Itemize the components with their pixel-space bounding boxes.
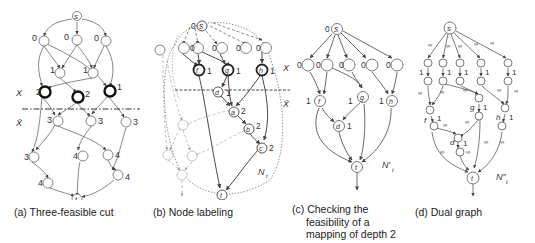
svg-text:X̄: X̄ [282, 99, 290, 109]
svg-text:N: N [258, 167, 265, 177]
svg-text:1: 1 [306, 96, 311, 106]
svg-text:1: 1 [117, 82, 122, 92]
figure-canvas: s t 0 0 0 1 1 2 2 1 3 3 3 3 4 4 4 4 X X̄ [0, 0, 535, 200]
svg-text:g: g [470, 103, 475, 112]
svg-text:g: g [360, 94, 364, 102]
svg-text:0: 0 [297, 60, 302, 70]
svg-text:0: 0 [325, 24, 330, 34]
panel-d-dual-graph: ∞ ∞ ∞ ∞ ∞ ∞ ∞ ∞ ∞ ∞ ∞ ∞ ∞ ∞ ∞ ∞ 1 1 1 1 … [418, 22, 518, 196]
svg-text:s: s [447, 24, 451, 33]
svg-text:N′: N′ [382, 160, 390, 170]
svg-text:1: 1 [347, 121, 352, 131]
svg-text:2: 2 [36, 87, 41, 97]
svg-text:∞: ∞ [497, 87, 501, 93]
svg-text:∞: ∞ [500, 139, 504, 145]
svg-text:3: 3 [24, 152, 29, 162]
svg-text:∞: ∞ [466, 149, 470, 155]
svg-text:4: 4 [125, 172, 130, 182]
svg-text:1: 1 [464, 68, 469, 77]
svg-text:0: 0 [256, 43, 261, 53]
svg-text:1: 1 [270, 66, 275, 76]
svg-text:∞: ∞ [463, 87, 467, 93]
svg-text:X: X [282, 63, 290, 73]
svg-text:t: t [266, 173, 268, 179]
svg-text:2: 2 [256, 121, 261, 131]
svg-text:a: a [231, 109, 235, 116]
svg-text:X: X [15, 88, 23, 98]
svg-text:1: 1 [50, 65, 55, 75]
svg-text:1: 1 [437, 114, 442, 123]
svg-text:0: 0 [361, 60, 366, 70]
svg-text:4: 4 [73, 151, 78, 161]
caption-d: (d) Dual graph [415, 206, 482, 219]
svg-text:3: 3 [133, 117, 138, 127]
svg-text:∞: ∞ [440, 149, 444, 155]
svg-text:g: g [225, 67, 229, 75]
svg-text:∞: ∞ [443, 122, 447, 128]
svg-text:0: 0 [386, 60, 391, 70]
caption-b: (b) Node labeling [153, 206, 233, 219]
svg-text:0: 0 [236, 43, 241, 53]
svg-text:c: c [259, 145, 263, 152]
svg-text:d: d [450, 138, 455, 147]
svg-text:0: 0 [190, 43, 195, 53]
svg-text:1: 1 [226, 88, 231, 98]
svg-text:N″: N″ [496, 172, 506, 182]
svg-text:∞: ∞ [428, 42, 432, 48]
svg-text:0: 0 [212, 43, 217, 53]
svg-text:t: t [506, 179, 508, 185]
svg-text:∞: ∞ [484, 139, 488, 145]
caption-c: (c) Checking the feasibility of a mappin… [292, 203, 396, 241]
svg-text:1: 1 [512, 68, 517, 77]
svg-text:∞: ∞ [418, 90, 422, 96]
panel-b-node-labeling: 0 s 0 0 0 0 f 1 g 1 h 1 d 1 a 2 b 2 c 2 … [155, 21, 290, 200]
svg-text:1: 1 [485, 68, 490, 77]
svg-text:h: h [259, 67, 263, 74]
svg-text:∞: ∞ [490, 40, 494, 46]
svg-text:∞: ∞ [474, 41, 478, 47]
svg-text:∞: ∞ [440, 89, 444, 95]
svg-text:1: 1 [509, 113, 514, 122]
svg-text:1: 1 [447, 68, 452, 77]
svg-text:∞: ∞ [465, 119, 469, 125]
svg-text:0: 0 [64, 32, 69, 42]
svg-text:0: 0 [32, 33, 37, 43]
svg-text:1: 1 [236, 66, 241, 76]
svg-text:∞: ∞ [458, 43, 462, 49]
svg-text:1: 1 [207, 66, 212, 76]
svg-text:3: 3 [98, 116, 103, 126]
svg-text:2: 2 [241, 106, 246, 116]
svg-text:2: 2 [269, 143, 274, 153]
svg-text:∞: ∞ [446, 43, 450, 49]
svg-text:0: 0 [191, 21, 196, 31]
svg-text:0: 0 [94, 33, 99, 43]
svg-text:h: h [389, 98, 393, 105]
svg-text:1: 1 [419, 68, 424, 77]
svg-text:1: 1 [379, 96, 384, 106]
svg-text:0: 0 [339, 60, 344, 70]
svg-text:1: 1 [83, 65, 88, 75]
panel-c-feasibility-check: 0 s 0 0 0 0 0 1 f 1 g 1 h d 1 t N′ t [297, 24, 403, 191]
svg-text:∞: ∞ [514, 88, 518, 94]
svg-text:1: 1 [463, 139, 468, 148]
svg-text:f: f [424, 116, 427, 125]
svg-text:s: s [74, 12, 78, 21]
svg-text:b: b [246, 126, 250, 133]
svg-text:X̄: X̄ [15, 118, 23, 128]
svg-text:0: 0 [316, 60, 321, 70]
svg-text:1: 1 [348, 96, 353, 106]
svg-text:h: h [496, 113, 501, 122]
svg-text:1: 1 [483, 103, 488, 112]
caption-a: (a) Three-feasible cut [14, 206, 114, 219]
svg-text:3: 3 [47, 115, 52, 125]
svg-text:4: 4 [115, 150, 120, 160]
svg-text:2: 2 [85, 89, 90, 99]
svg-text:t: t [392, 167, 394, 173]
panel-a-three-feasible-cut: s t 0 0 0 1 1 2 2 1 3 3 3 3 4 4 4 4 X X̄ [15, 12, 140, 201]
svg-text:4: 4 [38, 178, 43, 188]
